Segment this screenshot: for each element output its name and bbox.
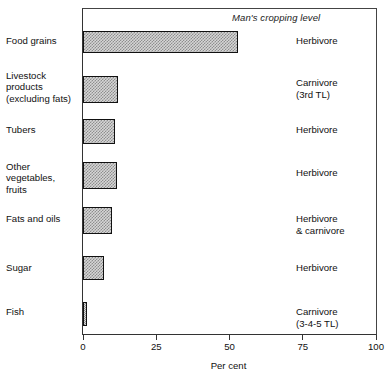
x-axis-tick-mark [229, 335, 230, 340]
trophic-level-line: Carnivore [296, 77, 388, 89]
category-label: Tubers [6, 124, 80, 135]
category-label-line: Other [6, 161, 80, 172]
trophic-level-label: Herbivore [296, 262, 388, 274]
x-axis-tick-mark [302, 335, 303, 340]
chart-container: Man's cropping level Food grainsHerbivor… [0, 0, 391, 379]
trophic-level-line: Herbivore [296, 124, 388, 136]
cropping-level-note: Man's cropping level [232, 12, 372, 23]
category-label-line: Tubers [6, 124, 80, 135]
category-label-line: Fish [6, 306, 80, 317]
trophic-level-label: Herbivore [296, 167, 388, 179]
category-label-line: fruits [6, 184, 80, 195]
x-axis-tick-label: 75 [297, 341, 308, 352]
x-axis-tick-label: 100 [368, 341, 384, 352]
trophic-level-line: Herbivore [296, 262, 388, 274]
trophic-level-line: Herbivore [296, 167, 388, 179]
category-label-line: (excluding fats) [6, 93, 80, 104]
trophic-level-label: Herbivore [296, 35, 388, 47]
category-label-line: Fats and oils [6, 213, 80, 224]
x-axis-title: Per cent [0, 360, 391, 371]
x-axis-tick-mark [156, 335, 157, 340]
trophic-level-label: Herbivore [296, 124, 388, 136]
trophic-level-label: Herbivore& carnivore [296, 213, 388, 236]
category-label-line: vegetables, [6, 172, 80, 183]
trophic-level-line: Herbivore [296, 213, 388, 225]
trophic-level-label: Carnivore(3rd TL) [296, 77, 388, 100]
trophic-level-line: (3-4-5 TL) [296, 318, 388, 330]
x-axis-tick-mark [376, 335, 377, 340]
x-axis-tick-label: 25 [151, 341, 162, 352]
category-label-line: Sugar [6, 262, 80, 273]
trophic-level-line: (3rd TL) [296, 89, 388, 101]
trophic-level-label: Carnivore(3-4-5 TL) [296, 306, 388, 329]
category-label-line: Livestock [6, 70, 80, 81]
category-label: Livestockproducts(excluding fats) [6, 70, 80, 104]
category-label: Sugar [6, 262, 80, 273]
bar [83, 207, 112, 234]
category-label-line: products [6, 81, 80, 92]
bar [83, 76, 118, 103]
category-label: Fats and oils [6, 213, 80, 224]
category-label: Fish [6, 306, 80, 317]
x-axis-tick-mark [83, 335, 84, 340]
category-label: Othervegetables,fruits [6, 161, 80, 195]
bar [83, 119, 115, 144]
bar [83, 162, 117, 189]
category-label: Food grains [6, 35, 80, 46]
bar [83, 256, 104, 280]
bar [83, 31, 238, 53]
x-axis-tick-label: 50 [224, 341, 235, 352]
bar [83, 302, 87, 326]
x-axis-tick-label: 0 [80, 341, 85, 352]
trophic-level-line: Carnivore [296, 306, 388, 318]
trophic-level-line: & carnivore [296, 225, 388, 237]
category-label-line: Food grains [6, 35, 80, 46]
trophic-level-line: Herbivore [296, 35, 388, 47]
